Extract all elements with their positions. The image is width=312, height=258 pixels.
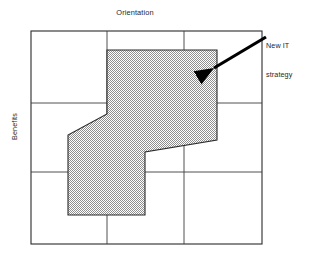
y-axis-label-wrapper: Benefits [0, 120, 44, 132]
annotation-arrow [214, 37, 266, 68]
annotation-label-line-2: strategy [266, 70, 312, 80]
annotation-label: New IT strategy [266, 22, 312, 98]
chart-title: Orientation [0, 8, 270, 17]
shaded-region-new-it-strategy [68, 50, 217, 215]
figure-root: Orientation Benefits New IT strategy [0, 0, 312, 258]
annotation-label-line-1: New IT [266, 41, 312, 51]
y-axis-label: Benefits [10, 113, 19, 140]
